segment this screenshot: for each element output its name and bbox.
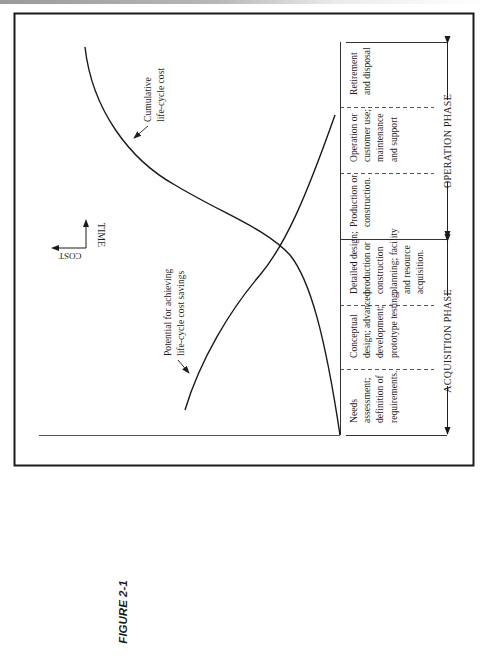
stage-5-text-line: and support (388, 117, 399, 162)
potential-label-pointer (178, 360, 189, 373)
cumulative-cost-curve (85, 47, 340, 435)
potential-curve-label-line: Potential for achieving (162, 268, 173, 356)
stage-3-text-line: production or (361, 241, 372, 294)
life-cycle-cost-diagram: OPERATION PHASE ACQUISITION PHASE Needsa… (0, 0, 484, 660)
figure-caption: FIGURE 2-1 (117, 580, 129, 643)
cost-axis-label: COST (58, 251, 82, 261)
time-axis-label: TIME (96, 223, 107, 247)
cumulative-label-pointer (134, 126, 148, 138)
stage-6-text-line: Retirement (348, 52, 359, 95)
stage-3-text-line: Detailed design; (348, 231, 359, 294)
cost-arrow-icon (51, 245, 59, 251)
stage-5-text-line: maintenance (374, 114, 385, 162)
stage-5-text-line: customer use; (361, 109, 372, 162)
cumulative-curve-label-line: life-cycle cost (155, 68, 166, 122)
stage-2-text-line: prototype testing. (388, 291, 399, 358)
operation-phase-label: OPERATION PHASE (442, 94, 453, 188)
stage-6-text-line: and disposal (361, 47, 372, 95)
stage-5-text-line: Operation or (348, 112, 359, 162)
stage-1-text-line: assessment; (361, 378, 372, 423)
cost-savings-potential-curve (185, 115, 335, 410)
stage-1-text-line: definition of (374, 375, 385, 423)
stage-2-text-line: Conceptual (348, 314, 359, 358)
stage-4-text-line: Production or (348, 174, 359, 227)
axis-indicator (51, 219, 89, 251)
stage-3-text-line: acquisition. (414, 250, 425, 295)
cumulative-curve-label-line: Cumulative (142, 77, 153, 122)
potential-curve-label-line: life-cycle cost savings (175, 270, 186, 356)
stage-3-text-line: planning; facility (388, 228, 399, 294)
stage-2-text-line: development; (374, 306, 385, 358)
stage-3-text-line: construction (374, 246, 385, 294)
stage-1-text-line: requirements. (388, 371, 399, 423)
stage-2-text-line: design; advanced (361, 291, 372, 358)
stage-1-text-line: Needs (348, 399, 359, 423)
acquisition-phase-label: ACQUISITION PHASE (442, 289, 453, 393)
stage-3-text-line: and resource (401, 245, 412, 294)
time-arrow-icon (83, 219, 89, 227)
stage-4-text-line: construction. (361, 177, 372, 227)
